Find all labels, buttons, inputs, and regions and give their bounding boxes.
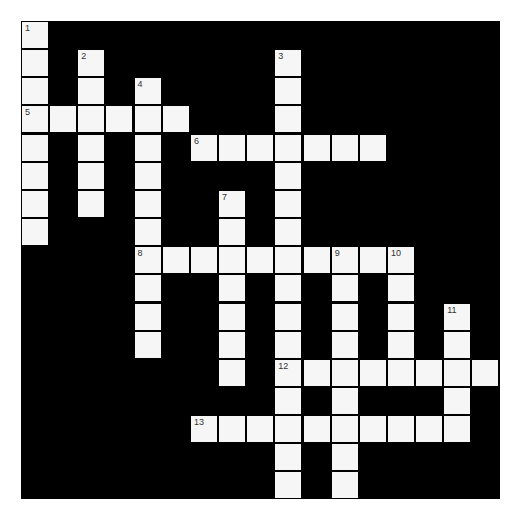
crossword-cell[interactable] <box>275 388 301 414</box>
crossword-cell[interactable] <box>332 332 358 358</box>
crossword-cell[interactable] <box>247 416 273 442</box>
crossword-cell[interactable] <box>416 360 442 386</box>
clue-number: 12 <box>278 361 288 371</box>
crossword-cell[interactable] <box>444 388 470 414</box>
crossword-cell[interactable] <box>275 219 301 245</box>
crossword-cell[interactable] <box>135 219 161 245</box>
crossword-cell[interactable]: 1 <box>22 22 48 48</box>
crossword-cell[interactable] <box>78 106 104 132</box>
clue-number: 13 <box>194 417 204 427</box>
clue-number: 10 <box>391 248 401 258</box>
crossword-cell[interactable]: 3 <box>275 50 301 76</box>
crossword-cell[interactable] <box>163 247 189 273</box>
crossword-cell[interactable] <box>22 135 48 161</box>
crossword-cell[interactable] <box>135 106 161 132</box>
crossword-cell[interactable] <box>22 78 48 104</box>
clue-number: 2 <box>81 51 86 61</box>
crossword-cell[interactable] <box>275 275 301 301</box>
crossword-cell[interactable] <box>332 360 358 386</box>
crossword-cell[interactable] <box>78 191 104 217</box>
clue-number: 7 <box>222 192 227 202</box>
crossword-cell[interactable] <box>275 304 301 330</box>
crossword-cell[interactable]: 8 <box>135 247 161 273</box>
crossword-cell[interactable] <box>275 163 301 189</box>
crossword-cell[interactable] <box>219 275 245 301</box>
crossword-cell[interactable]: 9 <box>332 247 358 273</box>
crossword-cell[interactable] <box>106 106 132 132</box>
crossword-cell[interactable] <box>332 275 358 301</box>
crossword-cell[interactable] <box>332 388 358 414</box>
crossword-cell[interactable] <box>78 135 104 161</box>
crossword-cell[interactable] <box>247 135 273 161</box>
crossword-cell[interactable] <box>219 304 245 330</box>
crossword-cell[interactable] <box>22 191 48 217</box>
crossword-cell[interactable] <box>388 416 414 442</box>
crossword-cell[interactable] <box>50 106 76 132</box>
crossword-cell[interactable] <box>219 247 245 273</box>
crossword-cell[interactable]: 6 <box>191 135 217 161</box>
crossword-cell[interactable] <box>219 360 245 386</box>
crossword-cell[interactable] <box>247 247 273 273</box>
crossword-cell[interactable] <box>360 416 386 442</box>
crossword-cell[interactable]: 5 <box>22 106 48 132</box>
crossword-cell[interactable]: 2 <box>78 50 104 76</box>
clue-number: 1 <box>25 23 30 33</box>
crossword-cell[interactable] <box>360 247 386 273</box>
crossword-cell[interactable] <box>22 219 48 245</box>
crossword-cell[interactable] <box>135 191 161 217</box>
crossword-cell[interactable]: 12 <box>275 360 301 386</box>
crossword-cell[interactable] <box>388 275 414 301</box>
crossword-cell[interactable] <box>304 135 330 161</box>
crossword-cell[interactable] <box>163 106 189 132</box>
crossword-cell[interactable]: 13 <box>191 416 217 442</box>
clue-number: 6 <box>194 136 199 146</box>
crossword-cell[interactable] <box>304 247 330 273</box>
crossword-cell[interactable] <box>304 416 330 442</box>
crossword-cell[interactable]: 11 <box>444 304 470 330</box>
crossword-cell[interactable] <box>332 416 358 442</box>
crossword-cell[interactable] <box>275 332 301 358</box>
crossword-cell[interactable] <box>22 163 48 189</box>
crossword-cell[interactable] <box>275 247 301 273</box>
crossword-cell[interactable]: 7 <box>219 191 245 217</box>
crossword-cell[interactable] <box>388 304 414 330</box>
crossword-cell[interactable] <box>275 106 301 132</box>
crossword-cell[interactable] <box>275 416 301 442</box>
crossword-cell[interactable] <box>135 163 161 189</box>
crossword-cell[interactable] <box>444 416 470 442</box>
crossword-grid: 15231248679101113 <box>21 21 500 499</box>
crossword-cell[interactable] <box>219 135 245 161</box>
crossword-cell[interactable]: 10 <box>388 247 414 273</box>
crossword-cell[interactable] <box>332 304 358 330</box>
crossword-cell[interactable] <box>135 304 161 330</box>
crossword-cell[interactable] <box>444 360 470 386</box>
crossword-cell[interactable] <box>78 78 104 104</box>
crossword-cell[interactable] <box>135 275 161 301</box>
crossword-cell[interactable] <box>332 444 358 470</box>
crossword-cell[interactable] <box>275 78 301 104</box>
crossword-cell[interactable] <box>78 163 104 189</box>
crossword-cell[interactable] <box>472 360 498 386</box>
crossword-cell[interactable] <box>388 360 414 386</box>
crossword-cell[interactable] <box>275 472 301 498</box>
crossword-cell[interactable] <box>416 416 442 442</box>
crossword-cell[interactable] <box>444 332 470 358</box>
clue-number: 8 <box>138 248 143 258</box>
crossword-cell[interactable] <box>304 360 330 386</box>
crossword-cell[interactable] <box>219 416 245 442</box>
crossword-cell[interactable] <box>360 360 386 386</box>
crossword-cell[interactable] <box>275 444 301 470</box>
crossword-cell[interactable] <box>219 219 245 245</box>
crossword-cell[interactable] <box>135 135 161 161</box>
crossword-cell[interactable] <box>275 191 301 217</box>
crossword-cell[interactable] <box>135 332 161 358</box>
crossword-cell[interactable] <box>332 135 358 161</box>
crossword-cell[interactable] <box>388 332 414 358</box>
crossword-cell[interactable]: 4 <box>135 78 161 104</box>
crossword-cell[interactable] <box>219 332 245 358</box>
crossword-cell[interactable] <box>332 472 358 498</box>
crossword-cell[interactable] <box>22 50 48 76</box>
crossword-cell[interactable] <box>191 247 217 273</box>
crossword-cell[interactable] <box>275 135 301 161</box>
crossword-cell[interactable] <box>360 135 386 161</box>
